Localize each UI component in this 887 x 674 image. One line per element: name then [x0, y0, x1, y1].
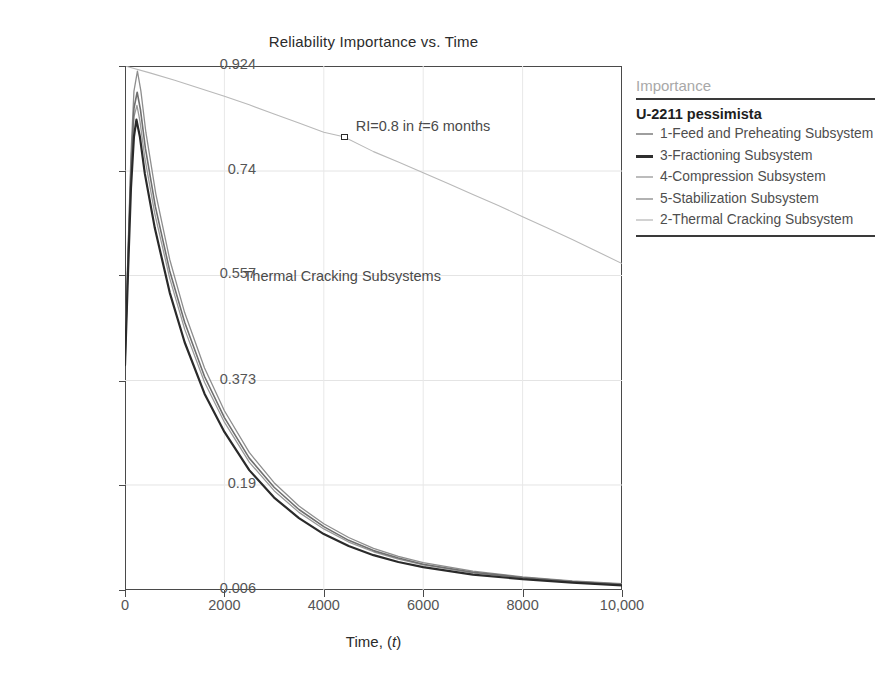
legend-subtitle: U-2211 pessimista: [636, 104, 879, 126]
y-tick-label: 0.74: [136, 161, 256, 177]
y-tick-mark: [119, 171, 126, 172]
y-tick-label: 0.006: [136, 580, 256, 596]
x-tick-label: 4000: [269, 597, 379, 613]
x-tick-mark: [423, 590, 424, 597]
x-axis-title-text: Time, (t): [346, 633, 401, 650]
legend-swatch-line-icon: [636, 219, 653, 221]
y-tick-mark: [119, 66, 126, 67]
y-tick-label: 0.373: [136, 371, 256, 387]
ri-callout-marker: [341, 134, 348, 140]
ri-callout-text: RI=0.8 in t=6 months: [356, 118, 491, 134]
legend-item-label: 3-Fractioning Subsystem: [660, 148, 813, 165]
legend-rule-bottom: [636, 235, 875, 238]
x-tick-label: 10,000: [567, 597, 677, 613]
legend-heading: Importance: [636, 76, 879, 97]
legend-swatch-line-icon: [636, 133, 653, 135]
legend-item-list: 1-Feed and Preheating Subsystem3-Fractio…: [636, 126, 879, 229]
legend-swatch-line-icon: [636, 155, 653, 158]
legend-item[interactable]: 3-Fractioning Subsystem: [636, 148, 879, 165]
y-tick-label: 0.924: [136, 56, 256, 72]
x-axis-title: Time, (t): [125, 633, 622, 650]
y-tick-mark: [119, 485, 126, 486]
legend-swatch-line-icon: [636, 176, 653, 178]
x-tick-label: 8000: [468, 597, 578, 613]
x-tick-label: 6000: [368, 597, 478, 613]
legend-item-label: 5-Stabilization Subsystem: [660, 191, 819, 208]
x-tick-label: 2000: [169, 597, 279, 613]
legend-item-label: 4-Compression Subsystem: [660, 169, 826, 186]
legend-item[interactable]: 4-Compression Subsystem: [636, 169, 879, 186]
plot-canvas: [125, 66, 622, 590]
x-tick-label: 0: [70, 597, 180, 613]
chart-title: Reliability Importance vs. Time: [125, 33, 622, 50]
legend-rule-top: [636, 98, 875, 100]
legend-item-label: 1-Feed and Preheating Subsystem: [660, 126, 873, 143]
x-tick-mark: [324, 590, 325, 597]
x-tick-mark: [523, 590, 524, 597]
chart-container: Reliability Importance vs. Time Reliabil…: [0, 0, 887, 674]
x-tick-mark: [224, 590, 225, 597]
y-tick-mark: [119, 275, 126, 276]
legend: Importance U-2211 pessimista 1-Feed and …: [636, 76, 879, 237]
legend-item[interactable]: 2-Thermal Cracking Subsystem: [636, 212, 879, 229]
y-tick-label: 0.557: [136, 265, 256, 281]
legend-item-label: 2-Thermal Cracking Subsystem: [660, 212, 853, 229]
x-tick-mark: [125, 590, 126, 597]
legend-item[interactable]: 1-Feed and Preheating Subsystem: [636, 126, 879, 143]
plot-area: [125, 66, 622, 590]
y-tick-mark: [119, 381, 126, 382]
x-tick-mark: [622, 590, 623, 597]
thermal-cracking-label: Thermal Cracking Subsystems: [243, 268, 440, 284]
legend-item[interactable]: 5-Stabilization Subsystem: [636, 191, 879, 208]
y-tick-label: 0.19: [136, 475, 256, 491]
legend-swatch-line-icon: [636, 198, 653, 200]
